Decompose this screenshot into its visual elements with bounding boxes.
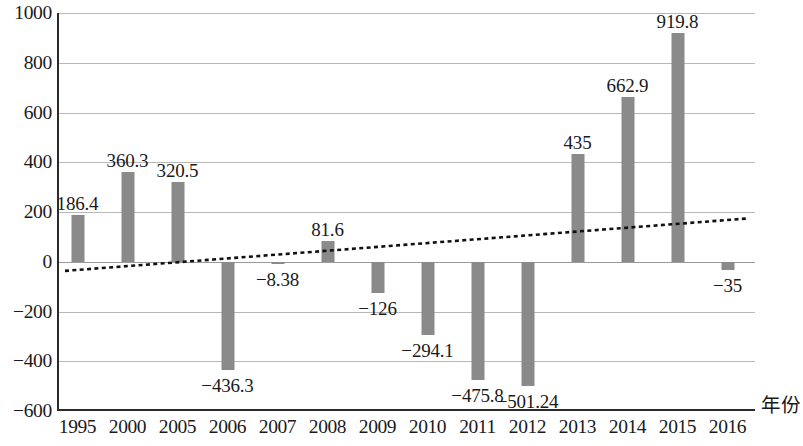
- bar: [271, 262, 284, 264]
- xtick-label: 2008: [309, 417, 346, 437]
- ytick-label: 600: [24, 103, 52, 123]
- gridline-1000: [59, 13, 755, 14]
- xtick-label: 2013: [559, 417, 596, 437]
- xtick-label: 2016: [709, 417, 746, 437]
- plot-area: 1000 800 600 400 200 0 −200 −400 −600 18…: [57, 13, 755, 411]
- xtick-label: 1995: [59, 417, 96, 437]
- bar-value-label: 81.6: [311, 220, 343, 239]
- bar-chart: 1000 800 600 400 200 0 −200 −400 −600 18…: [0, 0, 803, 446]
- bar: [521, 262, 534, 387]
- bar-value-label: −8.38: [256, 270, 299, 289]
- xtick-label: 2000: [109, 417, 146, 437]
- gridline-600: [59, 113, 755, 114]
- bar: [371, 262, 384, 293]
- ytick-label: 0: [43, 252, 52, 272]
- xtick-label: 2010: [409, 417, 446, 437]
- xtick-label: 2007: [259, 417, 296, 437]
- bar: [171, 182, 184, 262]
- bar: [321, 241, 334, 261]
- bar-value-label: −436.3: [201, 376, 253, 395]
- xtick-label: 2006: [209, 417, 246, 437]
- xtick-label: 2015: [659, 417, 696, 437]
- bar-value-label: −294.1: [401, 341, 453, 360]
- bar-value-label: 662.9: [607, 76, 649, 95]
- bar: [671, 33, 684, 262]
- gridline-200: [59, 212, 755, 213]
- bar-value-label: 360.3: [107, 151, 149, 170]
- xtick-label: 2005: [159, 417, 196, 437]
- gridline-zero: [59, 262, 755, 263]
- gridline-neg400: [59, 361, 755, 362]
- gridline-800: [59, 63, 755, 64]
- bar: [121, 172, 134, 262]
- bar: [571, 154, 584, 262]
- ytick-label: 200: [24, 202, 52, 222]
- bar: [471, 262, 484, 380]
- gridline-neg200: [59, 312, 755, 313]
- bar-value-label: −35: [713, 276, 742, 295]
- xtick-label: 2009: [359, 417, 396, 437]
- bar-value-label: 186.4: [57, 194, 99, 213]
- bar-value-label: 919.8: [657, 12, 699, 31]
- bar-value-label: 320.5: [157, 161, 199, 180]
- xtick-label: 2011: [459, 417, 496, 437]
- bar-value-label: 435: [564, 133, 592, 152]
- bar: [721, 262, 734, 271]
- bar: [71, 215, 84, 261]
- x-axis-title: 年份: [761, 396, 801, 416]
- xtick-label: 2012: [509, 417, 546, 437]
- ytick-label: 800: [24, 53, 52, 73]
- ytick-label: −200: [13, 302, 52, 322]
- bar: [421, 262, 434, 335]
- bar-value-label: −501.24: [497, 392, 559, 411]
- xtick-label: 2014: [609, 417, 646, 437]
- bar: [221, 262, 234, 371]
- bar: [621, 97, 634, 262]
- bar-value-label: −126: [358, 299, 396, 318]
- ytick-label: −600: [13, 401, 52, 421]
- ytick-label: 400: [24, 153, 52, 173]
- ytick-label: −400: [13, 352, 52, 372]
- ytick-label: 1000: [14, 3, 52, 23]
